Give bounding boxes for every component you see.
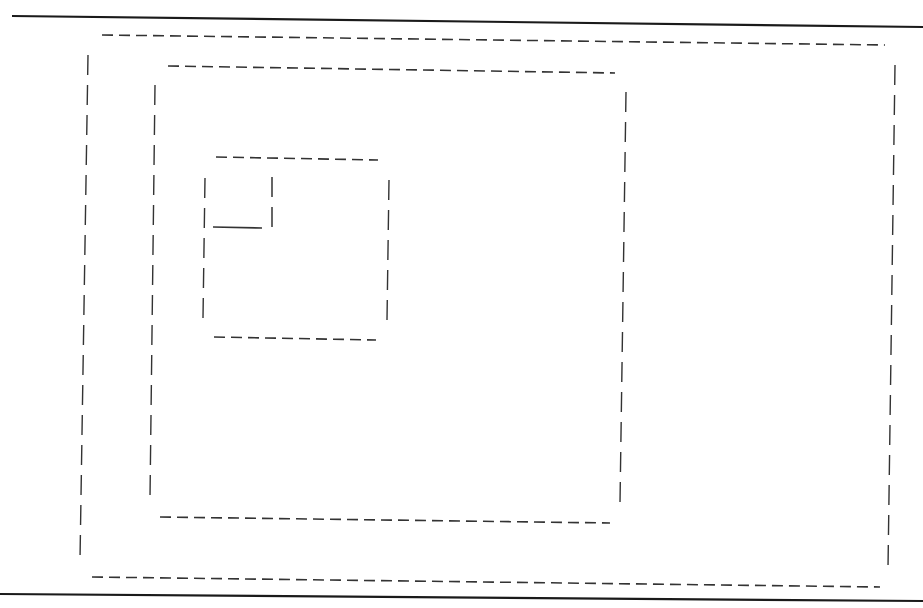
inner-box-top-edge	[216, 157, 378, 160]
outer-box-bottom-edge	[92, 577, 880, 587]
corner-notch-horizontal	[213, 227, 262, 228]
outer-box-top-edge	[102, 35, 885, 45]
top-rule	[12, 16, 923, 27]
middle-box-top-edge	[168, 66, 615, 73]
middle-box-bottom-edge	[160, 517, 610, 523]
nested-boxes-diagram	[0, 0, 923, 608]
diagram-canvas	[0, 0, 923, 608]
outer-box-right-edge	[888, 65, 895, 568]
inner-box-right-edge	[387, 180, 389, 320]
outer-box-left-edge	[80, 55, 88, 560]
inner-box-left-edge	[203, 178, 205, 318]
middle-box-right-edge	[620, 92, 626, 503]
bottom-rule	[0, 594, 923, 601]
middle-box-left-edge	[150, 85, 155, 498]
inner-box-bottom-edge	[214, 337, 376, 340]
